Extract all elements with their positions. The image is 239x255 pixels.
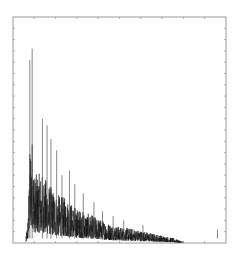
spectrum-chart (0, 0, 239, 255)
spectrum-trace (26, 145, 184, 243)
